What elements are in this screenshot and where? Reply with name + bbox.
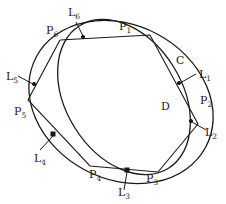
diagram-canvas: C D P1 P2 P3 P4 P5 P6 L6 L1 L2 L3 L4 L5 [0, 0, 226, 204]
label-p1: P1 [119, 20, 131, 35]
label-l5: L5 [6, 70, 18, 85]
label-d: D [161, 100, 170, 113]
label-p6: P6 [46, 24, 58, 39]
label-c: C [176, 54, 184, 67]
label-l6: L6 [68, 6, 80, 21]
label-l4: L4 [34, 152, 46, 167]
label-l1: L1 [199, 68, 211, 83]
polygon-chords [28, 35, 198, 172]
cut-off-caption: · · · [0, 197, 226, 204]
label-p3: P3 [146, 172, 158, 187]
label-p4: P4 [89, 168, 101, 183]
label-l2: L2 [205, 126, 217, 141]
label-p5: P5 [14, 105, 26, 120]
caption-fragment: · · · [0, 197, 226, 202]
curve-c [0, 0, 226, 204]
